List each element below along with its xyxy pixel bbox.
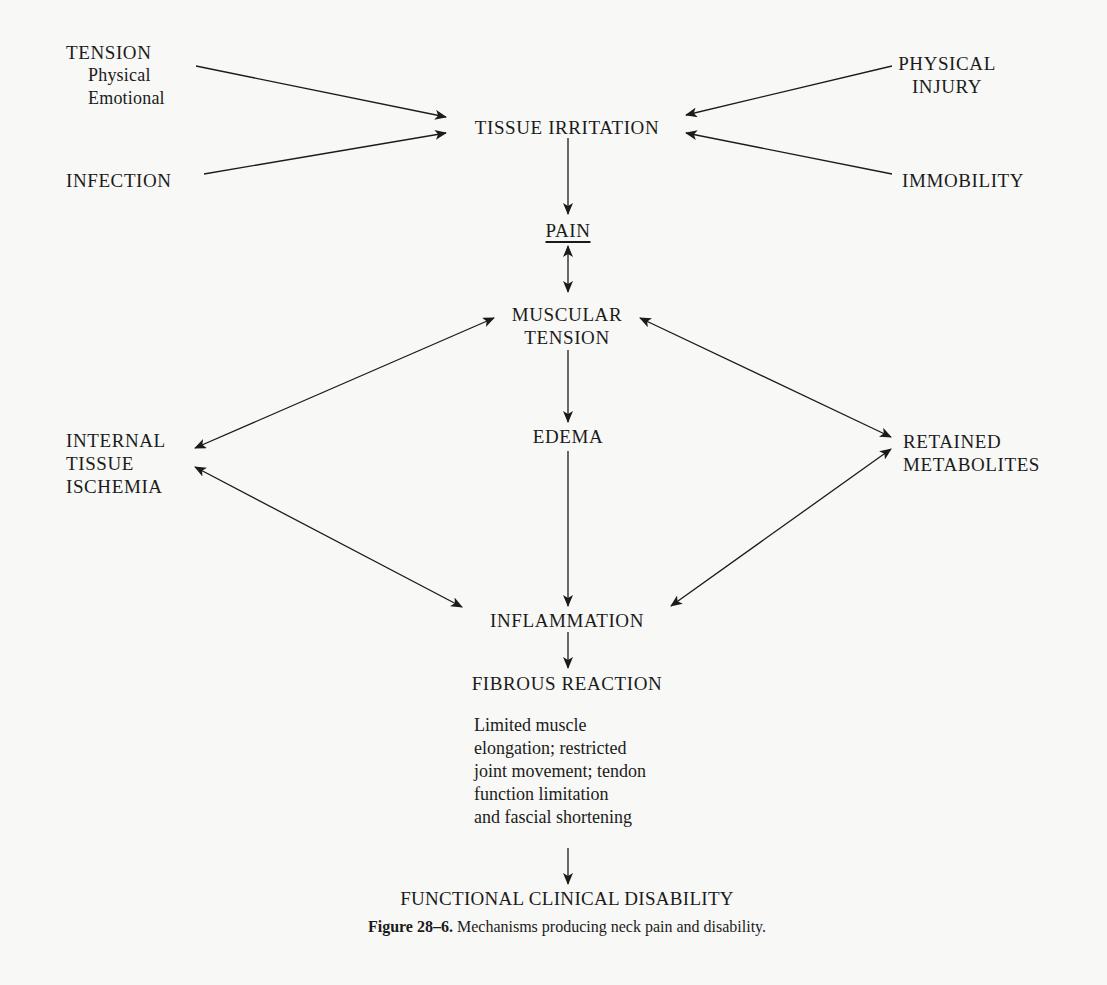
figure-canvas: TENSION Physical Emotional INFECTION PHY… (0, 0, 1107, 985)
node-tension-title: TENSION (66, 41, 165, 64)
fibrous-reaction-description: Limited muscle elongation; restricted jo… (474, 714, 646, 829)
node-infection-title: INFECTION (66, 169, 172, 192)
node-infection: INFECTION (66, 169, 172, 192)
figure-caption: Figure 28–6. Mechanisms producing neck p… (368, 918, 766, 936)
description-line: joint movement; tendon (474, 760, 646, 783)
node-tissue-irritation: TISSUE IRRITATION (475, 116, 659, 139)
node-edema: EDEMA (533, 425, 604, 448)
node-physical-injury-line2: INJURY (898, 75, 996, 98)
node-fibrous-reaction: FIBROUS REACTION (472, 672, 663, 695)
description-line: function limitation (474, 783, 646, 806)
node-physical-injury-line1: PHYSICAL (898, 52, 996, 75)
node-tension-physical: Physical (66, 64, 165, 87)
description-line: and fascial shortening (474, 806, 646, 829)
node-muscular-tension: MUSCULAR TENSION (512, 303, 622, 349)
node-ischemia-line1: INTERNAL (66, 429, 166, 452)
node-internal-tissue-ischemia: INTERNAL TISSUE ISCHEMIA (66, 429, 166, 498)
node-immobility: IMMOBILITY (902, 169, 1024, 192)
arrow-muscular-tension-ischemia (195, 318, 494, 448)
arrow-muscular-tension-metabolites (640, 318, 891, 437)
arrow-infection-to-irritation (204, 133, 446, 174)
node-tension-emotional: Emotional (66, 87, 165, 110)
description-line: Limited muscle (474, 714, 646, 737)
node-muscular-tension-line1: MUSCULAR (512, 303, 622, 326)
arrow-injury-to-irritation (686, 66, 892, 115)
node-inflammation: INFLAMMATION (490, 609, 644, 632)
node-metabolites-line1: RETAINED (903, 430, 1040, 453)
figure-caption-text: Mechanisms producing neck pain and disab… (453, 918, 766, 935)
arrow-immobility-to-irritation (686, 133, 892, 174)
node-functional-clinical-disability: FUNCTIONAL CLINICAL DISABILITY (400, 888, 734, 910)
arrow-layer (0, 0, 1107, 985)
node-muscular-tension-line2: TENSION (512, 326, 622, 349)
arrow-metabolites-inflammation (671, 449, 891, 606)
node-inflammation-title: INFLAMMATION (490, 609, 644, 632)
node-metabolites-line2: METABOLITES (903, 453, 1040, 476)
node-pain: PAIN (546, 219, 591, 242)
description-line: elongation; restricted (474, 737, 646, 760)
node-edema-title: EDEMA (533, 425, 604, 448)
arrow-ischemia-inflammation (195, 467, 462, 607)
node-ischemia-line2: TISSUE (66, 452, 166, 475)
node-pain-title: PAIN (546, 219, 591, 242)
node-physical-injury: PHYSICAL INJURY (898, 52, 996, 98)
node-tissue-irritation-title: TISSUE IRRITATION (475, 116, 659, 139)
node-fibrous-reaction-title: FIBROUS REACTION (472, 672, 663, 695)
node-tension: TENSION Physical Emotional (66, 41, 165, 110)
arrow-tension-to-irritation (196, 66, 446, 117)
figure-caption-label: Figure 28–6. (368, 918, 453, 935)
node-immobility-title: IMMOBILITY (902, 169, 1024, 192)
node-ischemia-line3: ISCHEMIA (66, 475, 166, 498)
node-retained-metabolites: RETAINED METABOLITES (903, 430, 1040, 476)
